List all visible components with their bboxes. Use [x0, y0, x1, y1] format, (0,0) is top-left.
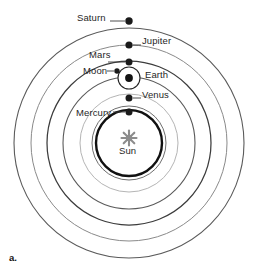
label-jupiter: Jupiter [142, 36, 171, 46]
sun-core-dot [126, 135, 132, 141]
figure-caption: a. [9, 252, 17, 263]
label-venus: Venus [142, 90, 169, 100]
mars-body-dot[interactable] [126, 59, 133, 66]
label-mercury: Mercury [76, 108, 111, 118]
label-sun: Sun [119, 146, 136, 156]
solar-system-diagram: Saturn Jupiter Mars Moon Earth Venus Mer… [0, 0, 255, 269]
orbit-canvas [0, 0, 255, 269]
venus-body-dot[interactable] [126, 95, 133, 102]
label-mars: Mars [89, 50, 111, 60]
earth-body-dot[interactable] [125, 74, 133, 82]
label-moon: Moon [83, 66, 107, 76]
mercury-body-dot[interactable] [126, 109, 133, 116]
jupiter-body-dot[interactable] [125, 41, 132, 48]
label-saturn: Saturn [77, 13, 106, 23]
saturn-body-dot[interactable] [125, 17, 132, 24]
moon-body-dot[interactable] [114, 68, 119, 73]
label-earth: Earth [145, 70, 168, 80]
